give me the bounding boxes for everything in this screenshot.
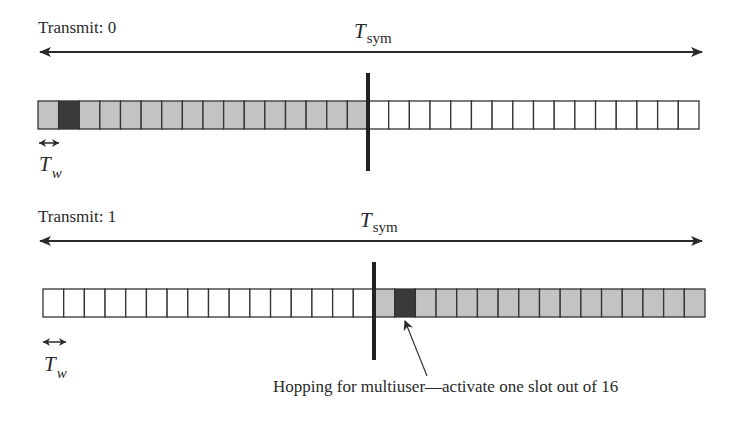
inactive-slot <box>43 289 64 317</box>
inactive-slot <box>637 101 658 129</box>
active-slot <box>182 101 203 129</box>
active-slot <box>79 101 100 129</box>
annotation-pointer-arrow <box>405 321 427 376</box>
selected-slot <box>59 101 80 129</box>
period-subscript: sym <box>373 219 398 235</box>
active-slot <box>519 289 540 317</box>
active-slot <box>477 289 498 317</box>
active-slot <box>162 101 183 129</box>
selected-slot <box>395 289 416 317</box>
inactive-slot <box>596 101 617 129</box>
active-slot <box>265 101 286 129</box>
inactive-slot <box>353 289 374 317</box>
active-slot <box>203 101 224 129</box>
active-slot <box>664 289 685 317</box>
active-slot <box>602 289 623 317</box>
active-slot <box>327 101 348 129</box>
row-label-transmit-0: Transmit: 0 <box>38 19 116 36</box>
inactive-slot <box>146 289 167 317</box>
inactive-slot <box>678 101 699 129</box>
row-label-transmit-1: Transmit: 1 <box>38 208 116 225</box>
active-slot <box>100 101 121 129</box>
active-slot <box>121 101 142 129</box>
row-transmit-0 <box>38 52 702 171</box>
symbol-period-label: Tsym <box>354 21 392 46</box>
inactive-slot <box>188 289 209 317</box>
active-slot <box>436 289 457 317</box>
active-slot <box>286 101 307 129</box>
active-slot <box>457 289 478 317</box>
inactive-slot <box>575 101 596 129</box>
active-slot <box>141 101 162 129</box>
slot-width-label: Tw <box>44 354 67 381</box>
active-slot <box>540 289 561 317</box>
inactive-slot <box>471 101 492 129</box>
inactive-slot <box>513 101 534 129</box>
inactive-slot <box>167 289 188 317</box>
inactive-slot <box>409 101 430 129</box>
symbol-period-label: Tsym <box>360 210 398 235</box>
slot-width-label: Tw <box>39 154 62 181</box>
slot-subscript: w <box>52 165 62 181</box>
inactive-slot <box>126 289 147 317</box>
inactive-slot <box>368 101 389 129</box>
inactive-slot <box>291 289 312 317</box>
row-transmit-1 <box>40 241 705 376</box>
active-slot <box>224 101 245 129</box>
inactive-slot <box>229 289 250 317</box>
inactive-slot <box>105 289 126 317</box>
inactive-slot <box>389 101 410 129</box>
active-slot <box>622 289 643 317</box>
slot-subscript: w <box>57 365 67 381</box>
inactive-slot <box>271 289 292 317</box>
symbol-divider <box>366 73 370 171</box>
inactive-slot <box>534 101 555 129</box>
slot-symbol: T <box>39 152 51 176</box>
active-slot <box>38 101 59 129</box>
slot-symbol: T <box>44 352 56 376</box>
active-slot <box>643 289 664 317</box>
period-subscript: sym <box>367 30 392 46</box>
inactive-slot <box>492 101 513 129</box>
active-slot <box>306 101 327 129</box>
inactive-slot <box>451 101 472 129</box>
active-slot <box>581 289 602 317</box>
active-slot <box>347 101 368 129</box>
inactive-slot <box>430 101 451 129</box>
inactive-slot <box>64 289 85 317</box>
inactive-slot <box>554 101 575 129</box>
active-slot <box>244 101 265 129</box>
inactive-slot <box>84 289 105 317</box>
inactive-slot <box>312 289 333 317</box>
inactive-slot <box>250 289 271 317</box>
active-slot <box>374 289 395 317</box>
inactive-slot <box>616 101 637 129</box>
inactive-slot <box>658 101 679 129</box>
active-slot <box>415 289 436 317</box>
period-symbol: T <box>360 208 372 232</box>
inactive-slot <box>209 289 230 317</box>
active-slot <box>498 289 519 317</box>
period-symbol: T <box>354 19 366 43</box>
hopping-annotation: Hopping for multiuser—activate one slot … <box>273 378 618 395</box>
inactive-slot <box>333 289 354 317</box>
symbol-divider <box>372 262 376 360</box>
active-slot <box>684 289 705 317</box>
active-slot <box>560 289 581 317</box>
